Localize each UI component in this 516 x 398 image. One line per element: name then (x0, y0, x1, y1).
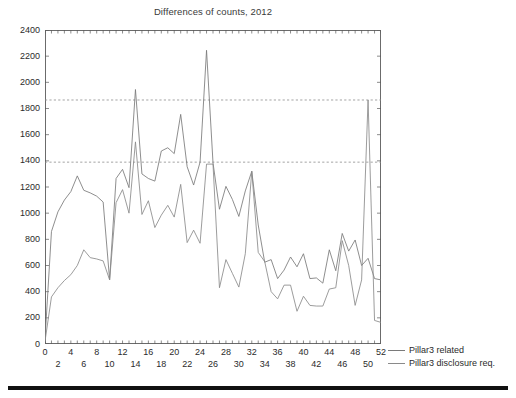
x-tick-label: 0 (42, 348, 47, 357)
y-tick-label: 1800 (2, 104, 40, 113)
y-tick-label: 2200 (2, 52, 40, 61)
axis-tick-marks (45, 30, 381, 344)
x-tick-label: 36 (273, 348, 283, 357)
x-tick-label: 32 (247, 348, 257, 357)
legend-item-pillar3-disclosure-req[interactable]: Pillar3 disclosure req. (388, 357, 514, 369)
chart-figure: Differences of counts, 2012 020040060080… (0, 0, 516, 398)
x-tick-label: 2 (55, 360, 60, 369)
y-tick-label: 2400 (2, 26, 40, 35)
x-tick-label: 8 (94, 348, 99, 357)
x-tick-label: 34 (260, 360, 270, 369)
legend-swatch-line (388, 363, 405, 364)
y-tick-label: 200 (2, 313, 40, 322)
x-tick-label: 30 (234, 360, 244, 369)
x-tick-label: 6 (81, 360, 86, 369)
legend-item-pillar3-related[interactable]: Pillar3 related (388, 344, 514, 356)
x-tick-label: 22 (182, 360, 192, 369)
x-tick-label: 18 (156, 360, 166, 369)
x-tick-label: 38 (286, 360, 296, 369)
x-tick-label: 16 (143, 348, 153, 357)
x-tick-label: 46 (337, 360, 347, 369)
y-tick-label: 600 (2, 261, 40, 270)
y-tick-label: 1200 (2, 183, 40, 192)
y-tick-label: 0 (2, 340, 40, 349)
plot-area (45, 30, 381, 344)
y-tick-label: 1000 (2, 209, 40, 218)
y-tick-label: 400 (2, 287, 40, 296)
x-tick-label: 44 (324, 348, 334, 357)
y-tick-label: 1600 (2, 130, 40, 139)
x-tick-label: 26 (208, 360, 218, 369)
y-tick-label: 800 (2, 235, 40, 244)
series-line-0 (45, 50, 381, 339)
x-axis-tick-labels: 0481216202428323640444852261014182226303… (45, 347, 381, 377)
x-tick-label: 20 (169, 348, 179, 357)
x-tick-label: 42 (311, 360, 321, 369)
legend-label: Pillar3 disclosure req. (409, 358, 495, 368)
x-tick-label: 48 (350, 348, 360, 357)
x-tick-label: 10 (105, 360, 115, 369)
series-line-1 (45, 100, 381, 341)
bottom-rule (8, 386, 508, 390)
x-tick-label: 52 (376, 348, 386, 357)
plot-canvas (45, 30, 381, 344)
x-tick-label: 28 (221, 348, 231, 357)
y-axis-tick-labels: 0200400600800100012001400160018002000220… (0, 30, 40, 344)
y-tick-label: 1400 (2, 156, 40, 165)
legend-label: Pillar3 related (409, 345, 464, 355)
x-tick-label: 14 (130, 360, 140, 369)
x-tick-label: 50 (363, 360, 373, 369)
x-tick-label: 12 (118, 348, 128, 357)
x-tick-label: 4 (68, 348, 73, 357)
chart-legend: Pillar3 related Pillar3 disclosure req. (388, 344, 514, 370)
y-tick-label: 2000 (2, 78, 40, 87)
x-tick-label: 24 (195, 348, 205, 357)
chart-title: Differences of counts, 2012 (45, 6, 381, 17)
x-tick-label: 40 (298, 348, 308, 357)
legend-swatch-line (388, 350, 405, 351)
